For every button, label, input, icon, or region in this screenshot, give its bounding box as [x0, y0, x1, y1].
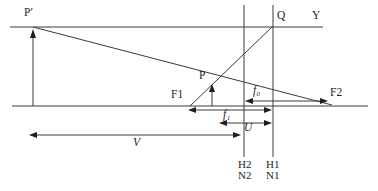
object-arrowhead-icon — [209, 84, 215, 92]
label-p-prime: P′ — [24, 7, 33, 18]
u-right-arrowhead-icon — [264, 120, 272, 126]
u-left-arrowhead-icon — [219, 120, 227, 126]
label-n1: N1 — [266, 170, 279, 181]
image-arrowhead-icon — [30, 29, 36, 38]
label-v-distance: V — [133, 137, 140, 148]
label-q: Q — [277, 10, 285, 21]
label-p: P — [199, 70, 205, 81]
label-y: Y — [312, 10, 320, 21]
diagram-linework — [0, 0, 378, 191]
v-left-arrowhead-icon — [29, 132, 37, 138]
label-u-distance: U — [244, 122, 252, 133]
lens-diagram: P′ Q Y P F1 F2 f₀ f₁ U V H2 N2 H1 N1 — [0, 0, 378, 191]
label-f2-point: F2 — [330, 87, 342, 98]
label-f1-distance: f₁ — [223, 109, 230, 120]
v-right-arrowhead-icon — [233, 132, 241, 138]
f1-left-arrowhead-icon — [188, 107, 196, 113]
label-f1-point: F1 — [171, 89, 183, 100]
label-n2: N2 — [238, 170, 251, 181]
focal-ray-line — [190, 26, 273, 106]
f1-right-arrowhead-icon — [264, 107, 272, 113]
label-f0-distance: f₀ — [253, 85, 260, 96]
f0-left-arrowhead-icon — [245, 98, 253, 104]
